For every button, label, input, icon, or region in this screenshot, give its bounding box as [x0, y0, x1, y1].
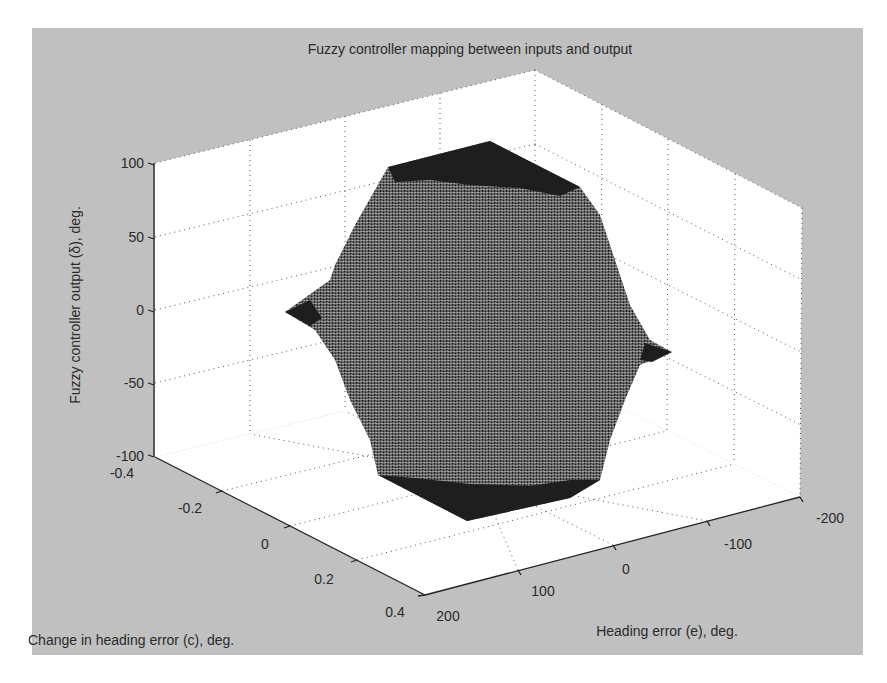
svg-text:0: 0	[622, 561, 630, 577]
figure: Fuzzy controller mapping between inputs …	[0, 0, 887, 683]
svg-text:0.4: 0.4	[385, 604, 405, 620]
svg-text:100: 100	[531, 583, 555, 599]
svg-text:-0.2: -0.2	[178, 500, 202, 516]
svg-text:200: 200	[436, 608, 460, 624]
svg-text:0: 0	[136, 302, 144, 318]
svg-text:-50: -50	[124, 375, 144, 391]
chart-title: Fuzzy controller mapping between inputs …	[308, 41, 633, 57]
e-axis-label: Heading error (e), deg.	[596, 623, 738, 639]
z-axis-label: Fuzzy controller output (δ), deg.	[67, 206, 83, 404]
svg-text:-100: -100	[724, 536, 752, 552]
svg-text:100: 100	[121, 155, 145, 171]
svg-text:50: 50	[128, 229, 144, 245]
svg-text:-100: -100	[116, 448, 144, 464]
svg-text:0.2: 0.2	[314, 571, 334, 587]
svg-text:-200: -200	[816, 510, 844, 526]
c-axis-label: Change in heading error (c), deg.	[28, 632, 234, 648]
svg-text:-0.4: -0.4	[110, 465, 134, 481]
svg-text:0: 0	[261, 536, 269, 552]
